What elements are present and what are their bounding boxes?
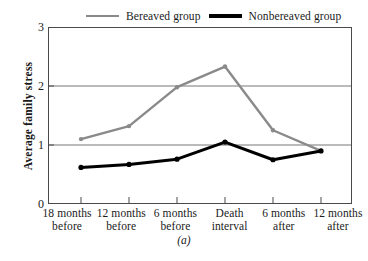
legend-label-bereaved: Bereaved group bbox=[126, 10, 201, 22]
chart-svg bbox=[48, 27, 352, 204]
legend-label-nonbereaved: Nonbereaved group bbox=[249, 10, 342, 22]
x-axis-ticks bbox=[81, 197, 321, 204]
x-tick-label-3: Deathinterval bbox=[203, 207, 257, 237]
series-bereaved-line bbox=[79, 64, 323, 153]
x-tick-label-1: 12 monthsbefore bbox=[94, 207, 148, 237]
series-line bbox=[81, 67, 321, 151]
data-point bbox=[318, 148, 323, 153]
x-tick-label-0: 18 monthsbefore bbox=[40, 207, 94, 237]
series-line bbox=[81, 142, 321, 167]
x-tick-label-2: 6 monthsbefore bbox=[148, 207, 202, 237]
legend-swatch-bereaved-icon bbox=[86, 15, 119, 18]
figure-caption: (a) bbox=[0, 234, 368, 246]
axis-frame bbox=[49, 28, 352, 204]
x-tick-label-5: 12 monthsafter bbox=[311, 207, 365, 237]
figure-chart-average-family-stress: Bereaved group Nonbereaved group Average… bbox=[0, 0, 368, 261]
data-point bbox=[126, 162, 131, 167]
legend-swatch-nonbereaved-icon bbox=[209, 14, 242, 18]
y-tick-label-1: 1 bbox=[30, 139, 44, 151]
data-point bbox=[174, 157, 179, 162]
x-axis-tick-labels: 18 monthsbefore12 monthsbefore6 monthsbe… bbox=[40, 207, 365, 237]
x-tick-label-4: 6 monthsafter bbox=[257, 207, 311, 237]
series-nonbereaved-line bbox=[78, 139, 323, 170]
y-tick-label-3: 3 bbox=[30, 21, 44, 33]
data-point bbox=[271, 128, 275, 132]
plot-area bbox=[48, 27, 352, 204]
data-point bbox=[78, 165, 83, 170]
legend-item-bereaved: Bereaved group bbox=[86, 10, 201, 22]
legend-item-nonbereaved: Nonbereaved group bbox=[209, 10, 342, 22]
data-point bbox=[79, 137, 83, 141]
data-point bbox=[127, 124, 131, 128]
data-point bbox=[270, 157, 275, 162]
data-point bbox=[222, 139, 227, 144]
data-point bbox=[175, 85, 179, 89]
data-point bbox=[223, 64, 227, 68]
chart-legend: Bereaved group Nonbereaved group bbox=[86, 8, 356, 24]
y-tick-label-2: 2 bbox=[30, 80, 44, 92]
